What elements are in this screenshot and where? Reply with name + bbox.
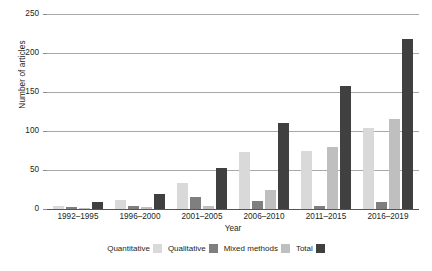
x-axis-tick-label: 1992–1995: [47, 212, 109, 221]
bar: [177, 183, 188, 209]
y-axis-tick: [43, 209, 47, 210]
legend-swatch: [281, 244, 290, 253]
bar-group: [47, 14, 109, 209]
bar-group: [171, 14, 233, 209]
x-axis-tick-label: 2006–2010: [233, 212, 295, 221]
legend-swatch: [316, 244, 325, 253]
chart-legend: QuantitativeQualitativeMixed methodsTota…: [0, 244, 432, 253]
bar: [314, 206, 325, 209]
bar: [79, 208, 90, 209]
bar-group: [357, 14, 419, 209]
bar: [389, 119, 400, 209]
y-axis-tick-label: 50: [0, 165, 39, 174]
bar: [301, 151, 312, 210]
bar: [252, 201, 263, 209]
bar: [115, 200, 126, 209]
x-axis-tick-labels: 1992–19951996–20002001–20052006–20102011…: [47, 212, 419, 221]
bar: [216, 168, 227, 209]
y-axis-tick-label: 100: [0, 126, 39, 135]
bar: [402, 39, 413, 209]
legend-swatch: [209, 244, 218, 253]
bar: [265, 190, 276, 210]
bar: [363, 128, 374, 209]
x-axis-tick-label: 2001–2005: [171, 212, 233, 221]
legend-item[interactable]: Qualitative: [168, 244, 218, 253]
legend-label: Quantitative: [107, 244, 150, 253]
bar: [239, 152, 250, 209]
bar-group: [233, 14, 295, 209]
y-axis-tick-label: 250: [0, 9, 39, 18]
bar: [128, 206, 139, 209]
bar: [66, 207, 77, 209]
bar: [190, 197, 201, 209]
bar: [278, 123, 289, 209]
legend-item[interactable]: Mixed methods: [224, 244, 290, 253]
bar: [154, 194, 165, 209]
bar: [92, 202, 103, 209]
legend-label: Qualitative: [168, 244, 206, 253]
x-axis-tick-label: 2011–2015: [295, 212, 357, 221]
bar: [376, 202, 387, 209]
x-axis-line: [47, 209, 419, 210]
bar-group: [295, 14, 357, 209]
legend-label: Total: [296, 244, 313, 253]
y-axis-tick-label: 0: [0, 204, 39, 213]
bar: [340, 86, 351, 209]
bar: [327, 147, 338, 209]
y-axis-tick-label: 200: [0, 48, 39, 57]
bar-groups: [47, 14, 419, 209]
bar-group: [109, 14, 171, 209]
legend-item[interactable]: Quantitative: [107, 244, 162, 253]
legend-label: Mixed methods: [224, 244, 278, 253]
x-axis-tick-label: 2016–2019: [357, 212, 419, 221]
x-axis-title: Year: [47, 224, 419, 233]
bar: [53, 206, 64, 209]
y-axis-tick-label: 150: [0, 87, 39, 96]
legend-item[interactable]: Total: [296, 244, 325, 253]
x-axis-tick-label: 1996–2000: [109, 212, 171, 221]
bar: [141, 207, 152, 209]
bar-chart: Number of articles 250200150100500 1992–…: [0, 0, 432, 271]
bar: [203, 206, 214, 209]
y-axis-title: Number of articles: [18, 15, 27, 135]
legend-swatch: [153, 244, 162, 253]
plot-area: [47, 14, 419, 209]
